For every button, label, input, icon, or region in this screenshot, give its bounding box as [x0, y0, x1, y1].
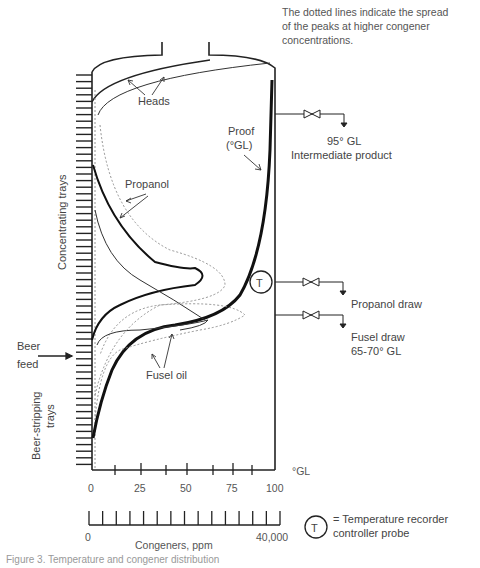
- probe-legend-line-2: controller probe: [333, 527, 409, 539]
- outlet-3-line-1: Fusel draw: [351, 331, 405, 343]
- outlet-fusel-draw: [275, 311, 346, 328]
- beer-feed-label-line-1: Beer: [17, 340, 41, 352]
- beer-stripping-label-line-2: trays: [44, 404, 56, 428]
- proof-arrow: [244, 155, 261, 170]
- temperature-probe: T: [250, 271, 272, 293]
- outlet-1-line-2: Intermediate product: [291, 149, 392, 161]
- outlet-3-line-2: 65-70° GL: [351, 345, 401, 357]
- fusel-oil-arrows: [152, 334, 174, 368]
- outlet-intermediate-product: [275, 110, 347, 127]
- probe-legend: T = Temperature recorder controller prob…: [305, 513, 448, 539]
- fusel-oil-label: Fusel oil: [146, 369, 187, 381]
- heads-curves: [92, 60, 270, 470]
- outlet-2-line-1: Propanol draw: [351, 298, 422, 310]
- proof-tick-100: 100: [266, 482, 284, 494]
- note-line-1: The dotted lines indicate the spread: [282, 6, 449, 18]
- legend-probe-symbol: T: [311, 522, 318, 534]
- heads-label: Heads: [138, 95, 170, 107]
- congener-min: 0: [85, 531, 91, 543]
- beer-feed-arrow: [38, 353, 72, 359]
- proof-axis-unit: °GL: [292, 465, 310, 477]
- proof-label-line-2: (°GL): [226, 139, 252, 151]
- column-outline: [92, 42, 275, 470]
- concentrating-trays-label: Concentrating trays: [56, 174, 68, 270]
- propanol-label: Propanol: [125, 178, 169, 190]
- beer-stripping-label-line-1: Beer-stripping: [30, 392, 42, 460]
- tray-hatches: [76, 75, 92, 464]
- congener-axis-label: Congeners, ppm: [135, 539, 213, 551]
- heads-arrows: [128, 77, 164, 95]
- figure-caption: Figure 3. Temperature and congener distr…: [6, 554, 219, 565]
- proof-tick-0: 0: [88, 482, 94, 494]
- outlet-propanol-draw: [275, 278, 346, 295]
- distillation-column-diagram: The dotted lines indicate the spread of …: [0, 0, 480, 568]
- beer-feed-label-line-2: feed: [17, 358, 38, 370]
- outlet-1-line-1: 95° GL: [327, 135, 361, 147]
- probe-symbol: T: [256, 277, 263, 289]
- note-line-3: concentrations.: [282, 34, 353, 46]
- congener-max: 40,000: [256, 531, 288, 543]
- proof-tick-50: 50: [180, 482, 192, 494]
- congener-axis: [89, 511, 280, 525]
- proof-tick-75: 75: [226, 482, 238, 494]
- note-line-2: of the peaks at higher congener: [282, 20, 430, 32]
- proof-axis-ticks: [115, 463, 252, 475]
- probe-legend-line-1: = Temperature recorder: [333, 513, 448, 525]
- proof-label-line-1: Proof: [228, 125, 255, 137]
- proof-tick-25: 25: [134, 482, 146, 494]
